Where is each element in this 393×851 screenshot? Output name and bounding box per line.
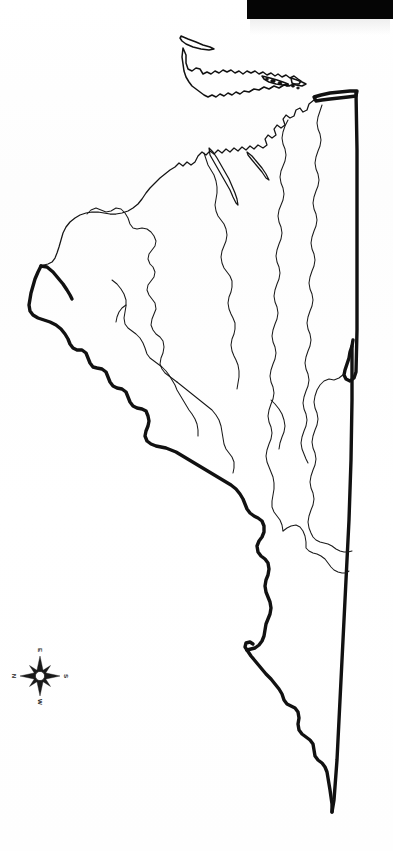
islet-6 — [266, 78, 269, 80]
compass-label-north: N — [11, 674, 18, 679]
compass-rose: N E S W — [11, 648, 70, 705]
river-northeast-arm — [271, 400, 285, 449]
islet-4 — [291, 85, 294, 87]
division-line-1 — [87, 208, 177, 382]
islet-5 — [297, 87, 300, 89]
compass-label-south: S — [63, 674, 70, 678]
division-line-4 — [301, 105, 322, 463]
northeast-corner — [314, 91, 357, 101]
division-line-5 — [283, 525, 349, 573]
compass-hub — [35, 671, 44, 680]
eastern-inner-edge — [308, 374, 352, 552]
mainland-boundary — [29, 91, 357, 812]
compass-label-east: E — [37, 648, 44, 652]
lake-northeast — [247, 152, 269, 180]
islet-2 — [278, 82, 282, 85]
compass-label-west: W — [37, 699, 44, 705]
map-page: N E S W — [0, 0, 393, 851]
islet-3 — [285, 84, 289, 87]
eastern-border-lower — [332, 346, 352, 812]
division-line-3 — [266, 120, 288, 531]
island-chain — [180, 36, 306, 97]
internal-divisions — [87, 105, 352, 573]
islet-1 — [271, 79, 276, 82]
map-figure: N E S W — [0, 0, 393, 851]
island-sliver-nw — [180, 36, 214, 50]
north-coast — [41, 100, 314, 266]
bay-upper-centre — [209, 148, 238, 205]
island-main — [182, 48, 301, 97]
northwest-corner — [41, 266, 72, 299]
division-line-2 — [204, 153, 239, 389]
eastern-border — [344, 92, 357, 381]
southern-border — [247, 650, 332, 812]
